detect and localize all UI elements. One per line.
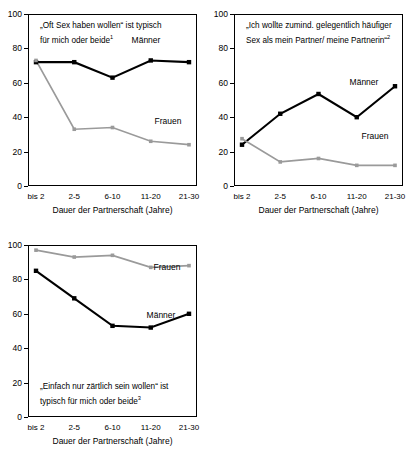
data-marker xyxy=(187,264,191,268)
y-tick-label: 20 xyxy=(13,378,22,387)
y-tick xyxy=(24,14,28,15)
y-tick xyxy=(24,186,28,187)
y-tick-label: 40 xyxy=(219,113,228,122)
x-tick-label: 2-5 xyxy=(274,192,286,201)
y-tick xyxy=(24,83,28,84)
x-tick-label: 21-30 xyxy=(179,192,199,201)
data-marker xyxy=(316,92,320,96)
y-tick xyxy=(24,152,28,153)
y-tick xyxy=(24,245,28,246)
y-tick xyxy=(230,186,234,187)
y-tick-label: 100 xyxy=(214,10,228,19)
series-label-frauen-3: Frauen xyxy=(154,262,181,272)
x-tick-label: 2-5 xyxy=(68,192,80,201)
y-tick-label: 20 xyxy=(13,147,22,156)
data-marker xyxy=(110,75,114,79)
data-marker xyxy=(240,143,244,147)
series-line-frauen xyxy=(36,60,189,144)
xaxis-title-1: Dauer der Partnerschaft (Jahre) xyxy=(53,205,173,215)
x-tick-label: bis 2 xyxy=(234,192,251,201)
data-marker xyxy=(111,254,115,258)
figure-panel-grid: „Oft Sex haben wollen“ ist typisch für m… xyxy=(0,0,412,462)
x-tick-label: 6-10 xyxy=(104,423,120,432)
series-label-maenner-2: Männer xyxy=(350,77,379,87)
x-tick-label: 11-20 xyxy=(141,192,161,201)
data-marker xyxy=(149,58,153,62)
x-tick-label: 6-10 xyxy=(104,192,120,201)
data-marker xyxy=(149,139,153,143)
data-marker xyxy=(355,115,359,119)
y-tick xyxy=(230,117,234,118)
x-tick-label: 21-30 xyxy=(179,423,199,432)
data-marker xyxy=(149,325,153,329)
y-tick xyxy=(230,48,234,49)
series-lines-1 xyxy=(28,14,197,186)
y-tick-label: 100 xyxy=(8,241,22,250)
series-line-maenner xyxy=(36,60,189,77)
y-tick xyxy=(230,83,234,84)
data-marker xyxy=(72,60,76,64)
data-marker xyxy=(240,137,244,141)
data-marker xyxy=(34,269,38,273)
y-tick-label: 0 xyxy=(223,182,228,191)
y-tick-label: 100 xyxy=(8,10,22,19)
y-tick-label: 40 xyxy=(13,113,22,122)
data-marker xyxy=(187,143,191,147)
y-tick xyxy=(24,314,28,315)
series-label-frauen-2: Frauen xyxy=(362,131,389,141)
y-tick xyxy=(24,48,28,49)
series-label-frauen-1: Frauen xyxy=(155,116,182,126)
y-tick xyxy=(24,417,28,418)
data-marker xyxy=(72,296,76,300)
data-marker xyxy=(393,84,397,88)
xaxis-title-2: Dauer der Partnerschaft (Jahre) xyxy=(259,205,379,215)
x-tick-label: 11-20 xyxy=(347,192,367,201)
series-line-frauen xyxy=(242,139,395,166)
xaxis-title-3: Dauer der Partnerschaft (Jahre) xyxy=(53,436,173,446)
y-tick xyxy=(24,279,28,280)
x-tick-label: bis 2 xyxy=(28,423,45,432)
series-label-maenner-3: Männer xyxy=(147,310,176,320)
y-tick-label: 40 xyxy=(13,344,22,353)
y-tick-label: 80 xyxy=(219,44,228,53)
y-tick-label: 20 xyxy=(219,147,228,156)
y-tick-label: 60 xyxy=(13,78,22,87)
data-marker xyxy=(278,160,282,164)
data-marker xyxy=(111,126,115,130)
data-marker xyxy=(72,255,76,259)
y-tick-label: 60 xyxy=(219,78,228,87)
data-marker xyxy=(187,312,191,316)
data-marker xyxy=(110,324,114,328)
y-tick xyxy=(230,14,234,15)
x-tick-label: 6-10 xyxy=(310,192,326,201)
chart-panel-2: „Ich wollte zumind. gelegentlich häufige… xyxy=(206,0,412,231)
y-tick xyxy=(24,383,28,384)
plot-area-3: „Einfach nur zärtlich sein wollen“ ist t… xyxy=(28,245,197,417)
x-tick-label: bis 2 xyxy=(28,192,45,201)
y-tick-label: 0 xyxy=(17,413,22,422)
data-marker xyxy=(34,248,38,252)
data-marker xyxy=(355,164,359,168)
data-marker xyxy=(72,127,76,131)
x-tick-label: 2-5 xyxy=(68,423,80,432)
x-tick-label: 11-20 xyxy=(141,423,161,432)
chart-panel-1: „Oft Sex haben wollen“ ist typisch für m… xyxy=(0,0,206,231)
chart-panel-3: „Einfach nur zärtlich sein wollen“ ist t… xyxy=(0,231,206,462)
y-tick xyxy=(230,152,234,153)
x-tick-label: 21-30 xyxy=(385,192,405,201)
series-label-maenner-1: Männer xyxy=(132,35,161,45)
series-lines-2 xyxy=(234,14,403,186)
y-tick-label: 60 xyxy=(13,309,22,318)
data-marker xyxy=(393,164,397,168)
y-tick xyxy=(24,348,28,349)
data-marker xyxy=(278,112,282,116)
plot-area-1: „Oft Sex haben wollen“ ist typisch für m… xyxy=(28,14,197,186)
data-marker xyxy=(187,60,191,64)
y-tick-label: 80 xyxy=(13,44,22,53)
y-tick xyxy=(24,117,28,118)
y-tick-label: 80 xyxy=(13,275,22,284)
y-tick-label: 0 xyxy=(17,182,22,191)
plot-area-2: „Ich wollte zumind. gelegentlich häufige… xyxy=(234,14,403,186)
data-marker xyxy=(317,157,321,161)
data-marker xyxy=(34,59,38,63)
